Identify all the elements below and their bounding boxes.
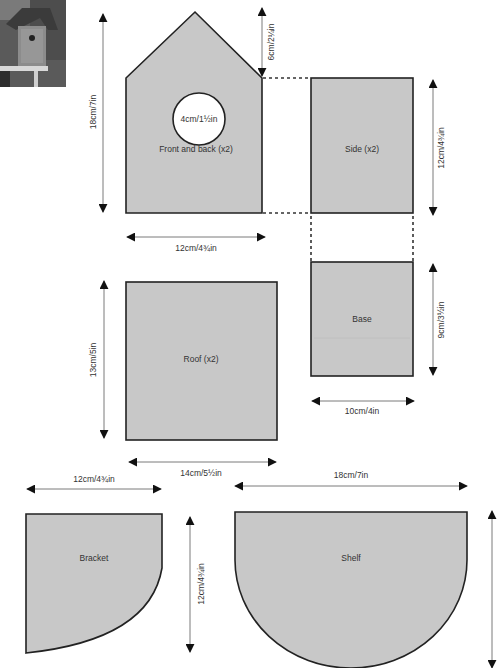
- base-label: Base: [352, 314, 372, 324]
- bracket-width-label: 12cm/4¾in: [73, 474, 115, 484]
- bracket-height-label: 12cm/4¾in: [196, 563, 206, 605]
- birdhouse-template-diagram: 4cm/1½in Front and back (x2) Side (x2) B…: [0, 0, 497, 668]
- front-width-label: 12cm/4¾in: [175, 243, 217, 253]
- base-height-label: 9cm/3½in: [436, 301, 446, 338]
- shelf-label: Shelf: [341, 553, 361, 563]
- bracket-label: Bracket: [80, 553, 109, 563]
- front-back-label: Front and back (x2): [159, 144, 233, 154]
- front-back-piece: [126, 12, 262, 213]
- shelf-width-label: 18cm/7in: [334, 470, 369, 480]
- front-peak-label: 6cm/2¼in: [266, 23, 276, 60]
- bracket-piece: [26, 514, 162, 653]
- shelf-piece: [235, 512, 467, 668]
- side-label: Side (x2): [345, 144, 379, 154]
- base-width-label: 10cm/4in: [345, 406, 380, 416]
- roof-label: Roof (x2): [184, 354, 219, 364]
- roof-width-label: 14cm/5½in: [180, 468, 222, 478]
- side-height-label: 12cm/4¾in: [436, 127, 446, 169]
- hole-size-label: 4cm/1½in: [181, 114, 218, 124]
- roof-height-label: 13cm/5in: [88, 342, 98, 377]
- front-height-label: 18cm/7in: [88, 94, 98, 129]
